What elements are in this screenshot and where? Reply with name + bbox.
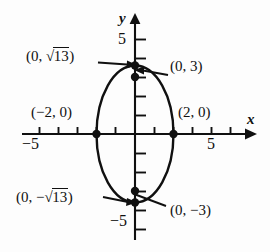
x-axis-arrowhead [245, 129, 257, 140]
graph-canvas [0, 0, 270, 252]
y-axis [130, 13, 146, 240]
radicand-bottom: 13 [52, 188, 68, 205]
point-0-neg-sqrt13 [131, 198, 139, 206]
y-tick-label-neg5: −5 [110, 213, 127, 229]
radicand-top: 13 [53, 47, 69, 64]
point-neg2-0 [92, 130, 100, 138]
point-label-0-neg-sqrt13-prefix: (0, − [16, 189, 44, 205]
leader-line-top-left [98, 63, 127, 65]
point-label-0-neg3: (0, −3) [170, 203, 211, 218]
y-axis-arrowhead [130, 13, 141, 24]
point-label-0-3: (0, 3) [170, 59, 203, 74]
point-label-neg2-0: (−2, 0) [31, 105, 72, 120]
ellipse-graph-figure: y x 5 −5 −5 5 (0, √13) (0, 3) (−2, 0) (2… [0, 0, 270, 252]
point-label-0-neg-sqrt13-suffix: ) [68, 189, 73, 205]
point-2-0 [169, 130, 177, 138]
point-label-2-0: (2, 0) [178, 105, 211, 120]
point-label-0-sqrt13-suffix: ) [69, 48, 74, 64]
radical-group-bottom: √13 [44, 190, 67, 205]
x-axis [22, 127, 257, 139]
x-axis-label: x [247, 112, 255, 127]
point-label-0-sqrt13: (0, √13) [26, 49, 74, 64]
radical-group-top: √13 [46, 49, 69, 64]
point-label-0-neg-sqrt13: (0, −√13) [16, 190, 73, 205]
point-0-3 [131, 73, 139, 81]
x-tick-label-neg5: −5 [22, 136, 39, 152]
point-0-neg3 [131, 187, 139, 195]
y-axis-label: y [119, 11, 126, 26]
point-label-0-sqrt13-prefix: (0, [26, 48, 46, 64]
point-0-sqrt13 [131, 61, 139, 69]
y-tick-label-5: 5 [118, 31, 126, 47]
x-tick-label-5: 5 [207, 136, 215, 152]
